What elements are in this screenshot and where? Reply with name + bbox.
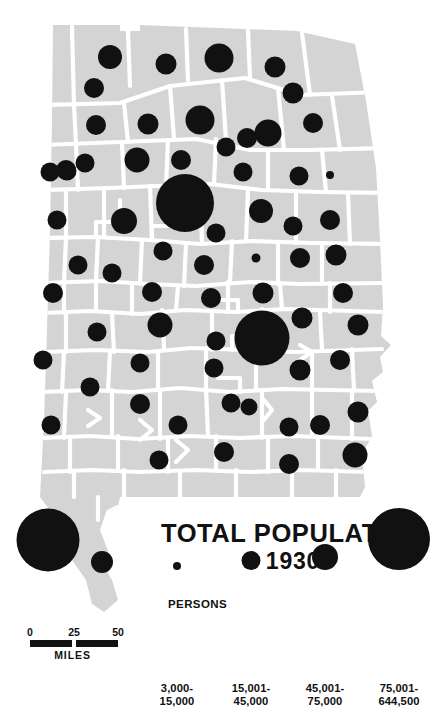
legend-swatch bbox=[140, 506, 214, 570]
population-symbol bbox=[252, 254, 261, 263]
population-symbol bbox=[237, 128, 257, 148]
population-symbol bbox=[255, 120, 282, 147]
population-symbol bbox=[69, 256, 88, 275]
population-symbol bbox=[253, 283, 274, 304]
legend-label: 3,000-15,000 bbox=[140, 682, 214, 708]
population-symbol bbox=[249, 199, 273, 223]
population-symbol bbox=[265, 57, 286, 78]
legend-heading: PERSONS bbox=[168, 598, 227, 610]
population-symbol bbox=[217, 138, 236, 157]
legend-symbol-circle bbox=[312, 544, 338, 570]
legend-items: 3,000-15,00015,001-45,00045,001-75,00075… bbox=[140, 616, 440, 716]
population-symbol bbox=[222, 394, 241, 413]
population-symbol bbox=[284, 217, 303, 236]
scale-tick-label: 25 bbox=[68, 626, 80, 638]
population-symbol bbox=[201, 288, 221, 308]
population-symbol bbox=[283, 83, 304, 104]
population-symbol bbox=[169, 416, 188, 435]
population-symbol bbox=[330, 350, 350, 370]
population-symbol bbox=[292, 308, 313, 329]
population-symbol bbox=[290, 248, 310, 268]
legend-swatch bbox=[288, 506, 362, 570]
population-symbol bbox=[235, 311, 290, 366]
population-symbol bbox=[98, 45, 122, 69]
population-symbol bbox=[138, 114, 159, 135]
population-symbol bbox=[186, 106, 215, 135]
population-symbol bbox=[34, 351, 53, 370]
population-symbol bbox=[43, 283, 63, 303]
scale-segment bbox=[30, 640, 72, 647]
population-symbol bbox=[81, 378, 100, 397]
population-symbol bbox=[171, 150, 191, 170]
population-symbol bbox=[343, 443, 368, 468]
legend-range-upper: 644,500 bbox=[362, 695, 436, 708]
scale-bar: 02550 MILES bbox=[22, 626, 127, 661]
population-symbol bbox=[241, 399, 258, 416]
legend-range-lower: 3,000- bbox=[140, 682, 214, 695]
population-symbol bbox=[320, 210, 340, 230]
population-symbol bbox=[125, 148, 150, 173]
scale-tick-label: 0 bbox=[27, 626, 33, 638]
legend-symbol-circle bbox=[242, 551, 261, 570]
population-symbol bbox=[84, 78, 104, 98]
population-symbol bbox=[333, 283, 353, 303]
population-symbol bbox=[326, 171, 334, 179]
population-symbol bbox=[194, 255, 214, 275]
population-symbol bbox=[42, 416, 61, 435]
legend-label: 75,001-644,500 bbox=[362, 682, 436, 708]
population-symbol bbox=[214, 442, 234, 462]
population-symbol bbox=[348, 315, 369, 336]
population-symbol bbox=[17, 509, 80, 572]
legend-range-upper: 15,000 bbox=[140, 695, 214, 708]
population-symbol bbox=[91, 551, 113, 573]
population-symbol bbox=[310, 415, 330, 435]
population-symbol bbox=[130, 394, 150, 414]
population-symbol bbox=[48, 211, 67, 230]
legend-range-lower: 75,001- bbox=[362, 682, 436, 695]
legend-range-lower: 45,001- bbox=[288, 682, 362, 695]
scale-tick-labels: 02550 bbox=[26, 626, 119, 640]
scale-segment bbox=[76, 640, 118, 647]
population-symbol bbox=[86, 115, 106, 135]
scale-units-label: MILES bbox=[22, 649, 123, 661]
population-symbol bbox=[207, 224, 226, 243]
scale-tick-label: 50 bbox=[112, 626, 124, 638]
population-symbol bbox=[41, 163, 60, 182]
legend-label: 15,001-45,000 bbox=[214, 682, 288, 708]
map-figure: TOTAL POPULATION 1930 PERSONS 3,000-15,0… bbox=[0, 0, 447, 720]
population-symbol bbox=[103, 264, 122, 283]
population-symbol bbox=[154, 242, 173, 261]
legend-swatch bbox=[362, 506, 436, 570]
population-symbol bbox=[348, 402, 369, 423]
population-symbol bbox=[156, 54, 177, 75]
legend-range-upper: 45,000 bbox=[214, 695, 288, 708]
population-symbol bbox=[88, 323, 107, 342]
population-symbol bbox=[290, 360, 311, 381]
legend-symbol-circle bbox=[368, 508, 430, 570]
population-symbol bbox=[207, 332, 226, 351]
population-symbol bbox=[131, 354, 150, 373]
alabama-county-map bbox=[0, 0, 447, 720]
population-symbol bbox=[76, 154, 95, 173]
population-symbol bbox=[156, 174, 214, 232]
population-symbol bbox=[280, 418, 299, 437]
population-symbol bbox=[150, 451, 169, 470]
legend-range-lower: 15,001- bbox=[214, 682, 288, 695]
population-symbol bbox=[58, 162, 77, 181]
legend-range-upper: 75,000 bbox=[288, 695, 362, 708]
population-symbol bbox=[148, 313, 173, 338]
population-symbol bbox=[205, 359, 224, 378]
population-symbol bbox=[326, 245, 347, 266]
population-symbol bbox=[279, 454, 299, 474]
legend-label: 45,001-75,000 bbox=[288, 682, 362, 708]
population-symbol bbox=[234, 163, 253, 182]
population-symbol bbox=[205, 44, 234, 73]
population-symbol bbox=[290, 167, 309, 186]
population-symbol bbox=[142, 282, 162, 302]
population-symbol bbox=[111, 208, 137, 234]
scale-segments bbox=[26, 640, 119, 647]
legend-swatch bbox=[214, 506, 288, 570]
population-symbol bbox=[303, 113, 323, 133]
legend-symbol-circle bbox=[173, 562, 181, 570]
